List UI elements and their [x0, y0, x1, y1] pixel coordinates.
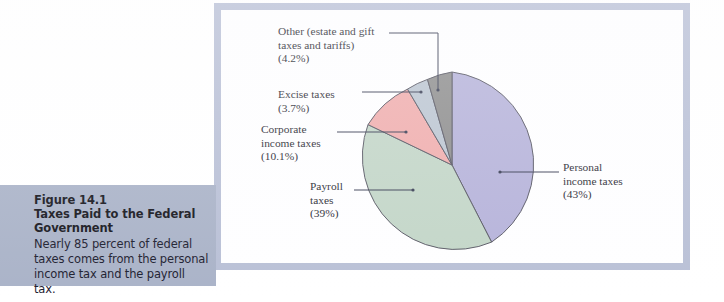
leader-dot-personal	[498, 170, 501, 173]
figure-caption-text: Nearly 85 percent of federal taxes comes…	[34, 237, 209, 298]
figure-caption-box: Figure 14.1 Taxes Paid to the Federal Go…	[0, 185, 216, 286]
figure-page: Other (estate and gift taxes and tariffs…	[0, 0, 724, 302]
leader-dot-other	[436, 88, 439, 91]
leader-dot-payroll	[411, 188, 414, 191]
pie-label-personal-income-taxes: Personal income taxes (43%)	[563, 161, 673, 202]
figure-number: Figure 14.1	[34, 193, 209, 207]
leader-dot-corporate	[404, 130, 407, 133]
pie-label-excise-taxes: Excise taxes (3.7%)	[278, 88, 378, 115]
figure-title-line-2: Government	[34, 221, 209, 235]
pie-label-payroll-taxes: Payroll taxes (39%)	[310, 180, 390, 221]
leader-dot-excise	[419, 90, 422, 93]
figure-title-line-1: Taxes Paid to the Federal	[34, 207, 209, 221]
pie-label-other-taxes: Other (estate and gift taxes and tariffs…	[278, 25, 398, 66]
pie-label-corporate-income-taxes: Corporate income taxes (10.1%)	[261, 123, 356, 164]
figure-caption-inner: Figure 14.1 Taxes Paid to the Federal Go…	[34, 193, 209, 297]
